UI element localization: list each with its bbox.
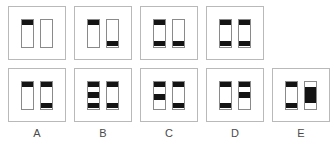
bar-left — [87, 19, 100, 48]
bar-right — [40, 81, 53, 110]
bar-right — [304, 81, 317, 110]
black-band — [305, 87, 316, 102]
bar-right — [238, 19, 251, 48]
bar-right — [106, 19, 119, 48]
bar-left — [21, 81, 34, 110]
black-band — [173, 41, 184, 47]
bar-left — [153, 81, 166, 110]
black-band — [22, 20, 33, 26]
sequence-cell-1: . — [8, 6, 66, 77]
panel-box[interactable] — [74, 68, 132, 122]
panel-box[interactable] — [140, 68, 198, 122]
black-band — [154, 20, 165, 26]
black-band — [220, 82, 231, 88]
sequence-cell-4: . — [206, 6, 264, 77]
bar-right — [238, 81, 251, 110]
black-band — [239, 82, 250, 88]
panel-box[interactable] — [272, 68, 330, 122]
black-band — [88, 92, 99, 98]
black-band — [107, 103, 118, 109]
options-row: ABCDE — [0, 68, 334, 139]
black-band — [41, 82, 52, 88]
black-band — [173, 103, 184, 109]
bar-left — [87, 81, 100, 110]
black-band — [173, 82, 184, 88]
black-band — [154, 94, 165, 100]
option-label-b: B — [99, 127, 107, 139]
panel-box — [8, 6, 66, 60]
option-cell-b[interactable]: B — [74, 68, 132, 139]
black-band — [107, 41, 118, 47]
bar-right — [172, 81, 185, 110]
bar-left — [285, 81, 298, 110]
option-label-c: C — [165, 127, 173, 139]
bar-left — [153, 19, 166, 48]
panel-box — [206, 6, 264, 60]
black-band — [239, 92, 250, 98]
black-band — [286, 82, 297, 88]
bar-left — [21, 19, 34, 48]
option-cell-d[interactable]: D — [206, 68, 264, 139]
option-cell-a[interactable]: A — [8, 68, 66, 139]
option-cell-c[interactable]: C — [140, 68, 198, 139]
bar-right — [40, 19, 53, 48]
option-label-d: D — [231, 127, 239, 139]
bar-right — [106, 81, 119, 110]
black-band — [220, 41, 231, 47]
black-band — [239, 20, 250, 26]
black-band — [286, 103, 297, 109]
option-label-e: E — [297, 127, 305, 139]
black-band — [220, 103, 231, 109]
bar-left — [219, 19, 232, 48]
panel-box — [140, 6, 198, 60]
sequence-cell-3: . — [140, 6, 198, 77]
black-band — [239, 41, 250, 47]
panel-box — [74, 6, 132, 60]
black-band — [88, 82, 99, 88]
black-band — [88, 103, 99, 109]
black-band — [88, 20, 99, 26]
black-band — [22, 82, 33, 88]
option-cell-e[interactable]: E — [272, 68, 330, 139]
analogy-puzzle: ..... ABCDE — [0, 0, 334, 149]
black-band — [154, 82, 165, 88]
bar-left — [219, 81, 232, 110]
black-band — [107, 82, 118, 88]
bar-right — [172, 19, 185, 48]
black-band — [41, 103, 52, 109]
panel-box[interactable] — [8, 68, 66, 122]
sequence-cell-2: . — [74, 6, 132, 77]
panel-box[interactable] — [206, 68, 264, 122]
sequence-cell-5: . — [272, 6, 330, 77]
black-band — [220, 20, 231, 26]
sequence-row: ..... — [0, 6, 334, 77]
black-band — [154, 41, 165, 47]
option-label-a: A — [33, 127, 41, 139]
panel-placeholder — [272, 6, 330, 60]
